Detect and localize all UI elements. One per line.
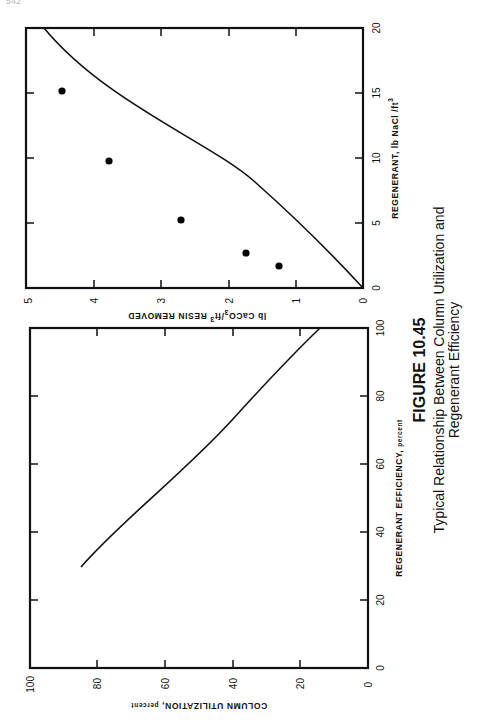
right-y-tick-4: 4 bbox=[89, 298, 100, 304]
left-x-axis-label: REGENERANT EFFICIENCY, percent bbox=[394, 419, 404, 577]
left-y-tick-40: 40 bbox=[228, 678, 239, 690]
right-y-tick-5: 5 bbox=[23, 298, 34, 304]
figure-caption-line-1: Typical Relationship Between Column Util… bbox=[431, 207, 447, 534]
figure-caption-line-2: Regenerant Efficiency bbox=[446, 302, 462, 439]
left-x-tick-80: 80 bbox=[375, 390, 386, 402]
right-y-axis-label: lb CaCO3/ft3 RESIN REMOVED bbox=[128, 309, 267, 323]
right-y-tick-1: 1 bbox=[291, 298, 302, 304]
left-y-tick-60: 60 bbox=[160, 678, 171, 690]
rotated-figure-page: 0 20 40 60 80 100 0 20 40 60 80 100 REGE… bbox=[0, 0, 483, 722]
right-x-tick-5: 5 bbox=[371, 220, 382, 226]
right-x-tick-15: 15 bbox=[371, 87, 382, 99]
left-x-tick-0: 0 bbox=[375, 665, 386, 671]
left-chart-curve bbox=[81, 328, 320, 567]
left-x-tick-100: 100 bbox=[375, 319, 386, 336]
left-chart: 0 20 40 60 80 100 0 20 40 60 80 100 REGE… bbox=[25, 319, 404, 711]
right-x-tick-10: 10 bbox=[371, 152, 382, 164]
left-y-tick-80: 80 bbox=[92, 678, 103, 690]
right-chart-x-ticks bbox=[26, 93, 363, 223]
right-y-tick-2: 2 bbox=[224, 298, 235, 304]
right-chart-fit-curve bbox=[44, 28, 363, 288]
left-x-tick-40: 40 bbox=[375, 526, 386, 538]
left-chart-frame bbox=[30, 328, 368, 668]
left-x-tick-60: 60 bbox=[375, 458, 386, 470]
right-y-tick-0: 0 bbox=[358, 298, 369, 304]
figure-number: FIGURE 10.45 bbox=[411, 317, 428, 422]
data-point bbox=[275, 262, 282, 269]
figure-caption: FIGURE 10.45 Typical Relationship Betwee… bbox=[411, 207, 462, 534]
right-chart: 0 5 10 15 20 0 1 2 3 4 5 REGENERANT, lb … bbox=[23, 22, 400, 323]
right-x-tick-20: 20 bbox=[371, 22, 382, 34]
data-point bbox=[105, 157, 112, 164]
data-point bbox=[177, 216, 184, 223]
left-y-axis-label: COLUMN UTILIZATION, percent bbox=[131, 701, 268, 711]
right-x-axis-label: REGENERANT, lb NaCl /ft3 bbox=[387, 97, 400, 218]
left-chart-x-ticks bbox=[30, 396, 368, 600]
right-chart-frame bbox=[26, 28, 363, 288]
left-y-tick-0: 0 bbox=[363, 682, 374, 688]
figure-canvas: 0 20 40 60 80 100 0 20 40 60 80 100 REGE… bbox=[0, 0, 483, 722]
data-point bbox=[58, 87, 65, 94]
left-y-tick-100: 100 bbox=[25, 676, 36, 693]
right-chart-y-ticks bbox=[94, 28, 296, 288]
left-x-tick-20: 20 bbox=[375, 594, 386, 606]
left-y-tick-20: 20 bbox=[295, 678, 306, 690]
data-point bbox=[242, 249, 249, 256]
right-y-tick-3: 3 bbox=[156, 298, 167, 304]
right-x-tick-0: 0 bbox=[371, 285, 382, 291]
